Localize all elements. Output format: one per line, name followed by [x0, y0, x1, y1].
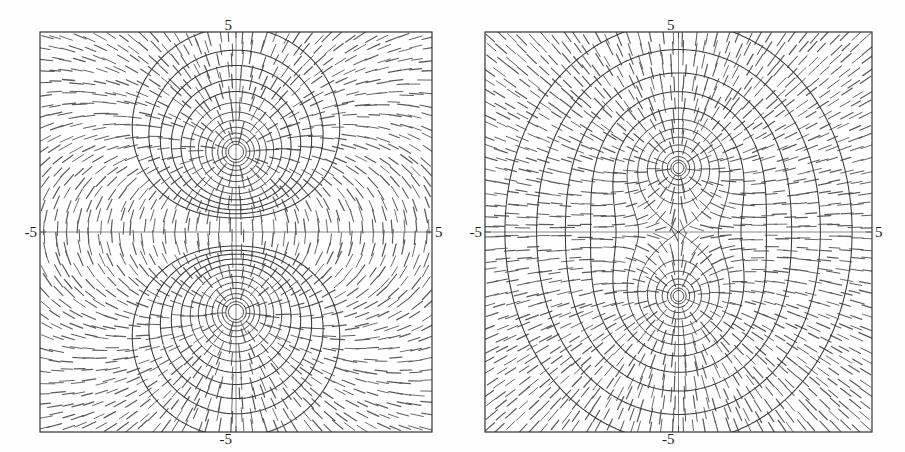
field-dash — [674, 77, 675, 91]
field-dash — [683, 75, 684, 88]
figure-root: 5-5-55 5-5-55 — [0, 0, 905, 452]
like-charges-field-label-bottom: -5 — [662, 431, 675, 447]
contour-line — [626, 26, 645, 32]
field-dash — [675, 98, 676, 109]
contour-line — [626, 433, 633, 435]
field-dash — [682, 88, 683, 101]
field-dash — [795, 217, 807, 218]
like-charges-field-label-left: -5 — [470, 224, 483, 240]
field-dash — [674, 376, 675, 391]
field-dash — [684, 386, 685, 398]
field-dash — [570, 257, 581, 258]
field-dash — [686, 65, 687, 76]
field-dash — [557, 216, 570, 217]
field-dash — [829, 248, 840, 249]
field-dash — [742, 249, 756, 250]
right-panel-container: 5-5-55 — [0, 0, 905, 452]
field-dash — [623, 283, 634, 284]
field-dash — [683, 397, 684, 411]
field-dash — [538, 250, 551, 251]
field-dash — [742, 205, 754, 206]
field-dash — [558, 250, 570, 251]
like-charges-field-label-top: 5 — [667, 17, 675, 33]
field-dash — [601, 216, 614, 217]
field-dash — [772, 214, 787, 215]
field-dash — [719, 171, 732, 172]
like-charges-field-label-right: 5 — [875, 224, 883, 240]
contour-line — [633, 435, 645, 438]
contour-line — [645, 435, 724, 442]
field-dash — [612, 237, 624, 238]
like-charges-field-svg: 5-5-55 — [0, 0, 905, 452]
field-dash — [580, 259, 594, 260]
field-dash — [734, 225, 745, 226]
field-dash — [602, 204, 612, 205]
field-dash — [483, 250, 495, 251]
field-dash — [840, 250, 851, 251]
field-dash — [797, 247, 808, 248]
field-dash — [612, 224, 624, 225]
like-charges-field-plot-area — [482, 22, 876, 442]
field-dash — [752, 193, 765, 194]
field-dash — [720, 235, 731, 236]
field-dash — [675, 362, 676, 375]
field-dash — [774, 203, 786, 204]
field-dash — [624, 292, 638, 293]
field-dash — [671, 54, 672, 66]
field-dash — [806, 213, 817, 214]
field-dash — [560, 206, 571, 207]
field-dash — [673, 42, 674, 55]
